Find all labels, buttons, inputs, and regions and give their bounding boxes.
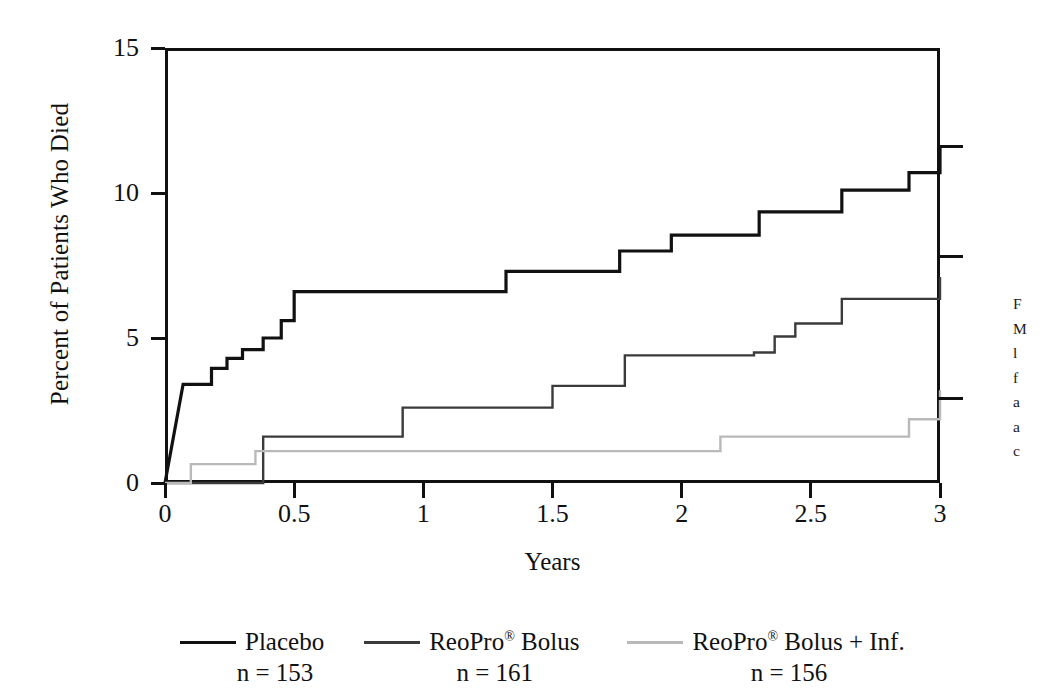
- caption-line: F: [1013, 292, 1043, 317]
- x-tick-1: 1: [422, 483, 425, 498]
- legend-sample-size: n = 161: [456, 659, 533, 686]
- legend-label: ReoPro® Bolus + Inf.: [692, 628, 904, 657]
- y-tick-label: 15: [113, 35, 139, 61]
- x-axis-title: Years: [165, 548, 940, 576]
- kaplan-meier-figure: Percent of Patients Who Died 151050 00.5…: [0, 0, 1043, 691]
- legend-line-swatch: [627, 641, 683, 645]
- figure-caption-clipped: FMlfaac: [1013, 292, 1043, 464]
- end-marker-1: 7,8: [937, 255, 963, 258]
- x-tick-0.5: 0.5: [293, 483, 296, 498]
- legend-entry-0: Placebon = 153: [180, 628, 324, 689]
- caption-line: l: [1013, 341, 1043, 366]
- caption-line: c: [1013, 439, 1043, 464]
- x-tick-label: 1.5: [536, 501, 569, 527]
- x-tick-1.5: 1.5: [551, 483, 554, 498]
- y-tick-10: 10: [151, 192, 165, 195]
- legend-entry-1: ReoPro® Bolusn = 161: [364, 628, 579, 689]
- x-tick-label: 0: [159, 501, 172, 527]
- series-line-0: [165, 147, 940, 483]
- x-tick-3: 3: [939, 483, 942, 498]
- x-tick-2: 2: [680, 483, 683, 498]
- legend-line-swatch: [180, 641, 236, 645]
- y-tick-15: 15: [151, 47, 165, 50]
- caption-line: f: [1013, 366, 1043, 391]
- chart-legend: Placebon = 153ReoPro® Bolusn = 161ReoPro…: [180, 628, 900, 689]
- x-tick-0: 0: [164, 483, 167, 498]
- y-axis-title: Percent of Patients Who Died: [46, 44, 74, 464]
- legend-label: Placebo: [245, 628, 324, 657]
- legend-line-swatch: [364, 641, 420, 645]
- y-tick-5: 5: [151, 337, 165, 340]
- legend-sample-size: n = 153: [237, 659, 314, 686]
- y-tick-label: 0: [126, 470, 139, 496]
- x-tick-label: 3: [934, 501, 947, 527]
- x-tick-label: 1: [417, 501, 430, 527]
- plot-area: 151050 00.511.522.53 11,67,82,9: [165, 48, 940, 483]
- caption-line: M: [1013, 317, 1043, 342]
- caption-line: a: [1013, 390, 1043, 415]
- caption-line: a: [1013, 415, 1043, 440]
- x-tick-2.5: 2.5: [809, 483, 812, 498]
- legend-entry-2: ReoPro® Bolus + Inf.n = 156: [627, 628, 904, 689]
- registered-trademark-icon: ®: [504, 629, 515, 644]
- registered-trademark-icon: ®: [767, 629, 778, 644]
- x-tick-label: 0.5: [278, 501, 311, 527]
- end-marker-0: 11,6: [937, 145, 963, 148]
- x-tick-label: 2: [675, 501, 688, 527]
- legend-label: ReoPro® Bolus: [429, 628, 579, 657]
- y-tick-label: 10: [113, 180, 139, 206]
- curve-layer: [165, 48, 940, 483]
- y-tick-label: 5: [126, 325, 139, 351]
- end-marker-2: 2,9: [937, 397, 963, 400]
- x-tick-label: 2.5: [795, 501, 828, 527]
- legend-sample-size: n = 156: [751, 659, 828, 686]
